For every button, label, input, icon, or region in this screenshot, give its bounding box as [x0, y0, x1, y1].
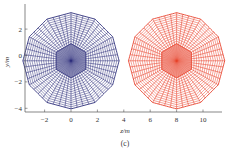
x-tick-label: 6 — [148, 116, 152, 124]
x-tick-label: 2 — [96, 116, 100, 124]
x-tick-label: 10 — [200, 116, 208, 124]
mesh-right — [128, 13, 224, 109]
x-axis-label: z/m — [119, 127, 130, 135]
y-tick-label: 0 — [19, 52, 23, 60]
x-tick-label: 4 — [122, 116, 126, 124]
mesh-figure: −20246810 20−2−4 z/m y/m (c) — [0, 0, 232, 154]
panel-label: (c) — [121, 139, 130, 148]
mesh-left — [23, 13, 119, 109]
x-tick-label: 0 — [69, 116, 73, 124]
y-tick-label: 2 — [19, 26, 23, 34]
mesh-layer — [23, 13, 225, 109]
y-tick-label: −4 — [15, 105, 23, 113]
y-tick-label: −2 — [15, 78, 23, 86]
y-axis-label: y/m — [3, 57, 11, 68]
x-tick-label: 8 — [175, 116, 179, 124]
x-tick-label: −2 — [41, 116, 49, 124]
